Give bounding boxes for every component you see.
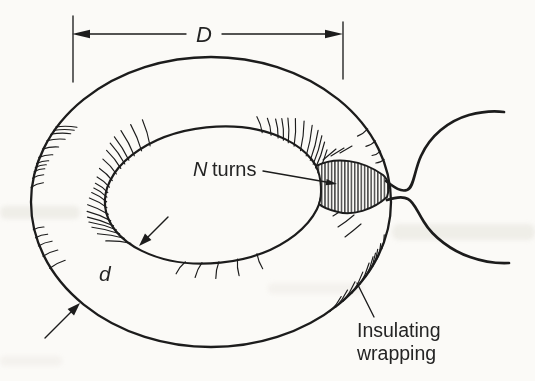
lead-wire-top xyxy=(386,111,504,190)
dimension-arrowhead-right-icon xyxy=(325,30,343,38)
diameter-label: D xyxy=(196,22,212,47)
outer-edge-pointer-arrow xyxy=(45,303,80,338)
insulating-wrapping-label-line2: wrapping xyxy=(356,342,436,364)
winding-ticks-outer-bottom-right xyxy=(330,235,384,312)
winding-ticks-inner-upper-left xyxy=(87,120,150,244)
winding-band-hatched xyxy=(316,160,389,213)
winding-ticks-inner-upper-right xyxy=(257,117,327,173)
n-turns-label-symbol: N xyxy=(193,158,208,180)
dimension-arrowhead-left-icon xyxy=(72,30,90,38)
winding-ticks-outer-lower-left xyxy=(33,227,65,268)
diameter-dimension: D xyxy=(72,16,343,82)
insulating-leader-line xyxy=(357,283,374,317)
n-turns-label-word: turns xyxy=(212,158,256,180)
core-diameter-label: d xyxy=(99,262,112,285)
core-pointer-arrow xyxy=(139,217,168,246)
insulating-wrapping-callout: Insulating wrapping xyxy=(356,283,440,364)
scan-artifacts xyxy=(0,206,535,366)
toroid-diagram: D N turns d Insulating wrapping xyxy=(0,0,535,381)
tube-contour-strokes-top xyxy=(323,146,352,160)
torus-hole-edge xyxy=(98,116,329,274)
figure-canvas: D N turns d Insulating wrapping xyxy=(0,0,535,381)
insulating-wrapping-label-line1: Insulating xyxy=(357,319,440,341)
winding-ticks-outer-upper-left xyxy=(31,126,77,187)
n-turns-callout: N turns xyxy=(193,158,337,185)
